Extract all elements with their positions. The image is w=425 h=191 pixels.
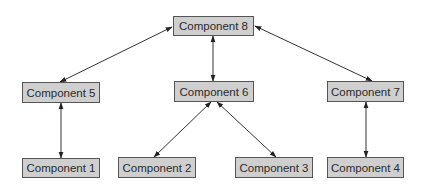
node-component-8: Component 8 [173,16,254,36]
node-label: Component 2 [122,162,191,174]
node-label: Component 1 [26,162,95,174]
node-component-2: Component 2 [118,157,196,178]
edge-c6-c3 [217,102,276,157]
node-component-3: Component 3 [235,157,313,178]
edge-c6-c2 [154,102,211,157]
node-label: Component 8 [179,20,248,32]
edge-c8-c5 [60,27,172,82]
node-component-7: Component 7 [327,81,404,102]
node-component-6: Component 6 [174,81,254,102]
node-label: Component 4 [331,162,400,174]
node-label: Component 5 [26,87,95,99]
node-label: Component 3 [239,162,308,174]
node-component-4: Component 4 [327,157,404,178]
edge-c8-c7 [255,26,372,81]
node-component-5: Component 5 [22,82,100,103]
node-component-1: Component 1 [22,158,100,178]
node-label: Component 6 [179,86,248,98]
diagram-canvas: Component 8 Component 5 Component 6 Comp… [0,0,425,191]
node-label: Component 7 [331,86,400,98]
